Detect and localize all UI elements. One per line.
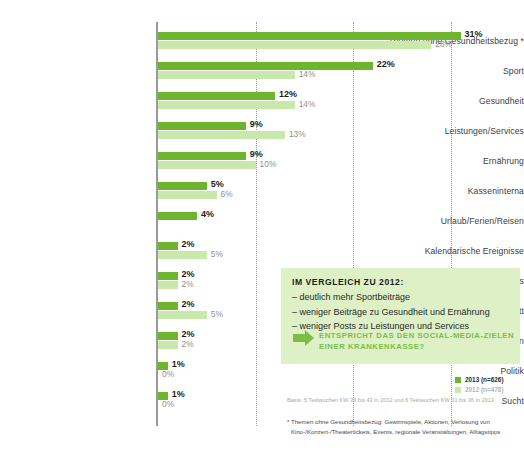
bar-value-2012: 2% [182, 340, 194, 348]
bar-2012 [158, 101, 295, 109]
bar-value-2012: 0% [162, 370, 174, 378]
bar-2013 [158, 122, 246, 130]
bar-row: Urlaub/Ferien/Reisen4% [0, 206, 524, 236]
bar-row: Ernährung9%10% [0, 146, 524, 176]
legend-item: 2013 (n=626) [455, 376, 504, 383]
bar-value-2013: 22% [377, 60, 395, 68]
bar-row: Gesundheit12%14% [0, 86, 524, 116]
bar-2012 [158, 341, 178, 349]
bar-value-2013: 2% [182, 240, 195, 248]
bar-value-2013: 2% [182, 330, 195, 338]
bar-2012 [158, 161, 256, 169]
bar-value-2013: 31% [465, 30, 483, 38]
bar-value-2012: 0% [162, 400, 174, 408]
bar-value-2013: 9% [250, 150, 263, 158]
bar-value-2013: 4% [201, 210, 214, 218]
bar-group: 9%13% [158, 116, 524, 146]
legend-swatch [455, 387, 461, 393]
bar-group: 22%14% [158, 56, 524, 86]
bar-2012 [158, 191, 217, 199]
arrow-right-icon [293, 330, 315, 346]
chart-figure: Themen ohne Gesundheitsbezug *31%28%Spor… [0, 0, 524, 459]
bar-2012 [158, 41, 431, 49]
bar-value-2013: 1% [172, 360, 185, 368]
bar-2013 [158, 302, 178, 310]
chart-legend: 2013 (n=626)2012 (n=478) [455, 376, 504, 396]
bar-2012 [158, 311, 207, 319]
bar-value-2012: 10% [260, 160, 277, 168]
bar-value-2012: 5% [211, 250, 223, 258]
bar-value-2012: 13% [289, 130, 306, 138]
callout-title: IM VERGLEICH ZU 2012: [292, 277, 510, 287]
bar-row: Leistungen/Services9%13% [0, 116, 524, 146]
footnote-text: * Themen ohne Gesundheitsbezug: Gewinnsp… [287, 417, 524, 436]
bar-group: 31%28% [158, 26, 524, 56]
bar-value-2013: 5% [211, 180, 224, 188]
legend-label: 2013 (n=626) [465, 376, 504, 383]
legend-swatch [455, 377, 461, 383]
bar-row: Sport22%14% [0, 56, 524, 86]
legend-label: 2012 (n=478) [465, 386, 504, 393]
bar-2013 [158, 242, 178, 250]
callout-item: – deutlich mehr Sportbeiträge [292, 292, 510, 303]
bar-2012 [158, 251, 207, 259]
bar-group: 5%6% [158, 176, 524, 206]
bar-2013 [158, 332, 178, 340]
bar-value-2012: 28% [435, 40, 452, 48]
bar-value-2013: 2% [182, 270, 195, 278]
bar-row: Kalendarische Ereignisse2%5% [0, 236, 524, 266]
bar-value-2013: 9% [250, 120, 263, 128]
bar-2013 [158, 182, 207, 190]
bar-group: 12%14% [158, 86, 524, 116]
bar-value-2012: 5% [211, 310, 223, 318]
bar-row: Themen ohne Gesundheitsbezug *31%28% [0, 26, 524, 56]
bar-group: 2%5% [158, 236, 524, 266]
legend-item: 2012 (n=478) [455, 386, 504, 393]
bar-value-2012: 14% [299, 100, 316, 108]
callout-item: – weniger Beiträge zu Gesundheit und Ern… [292, 307, 510, 318]
bar-row: Kasseninterna5%6% [0, 176, 524, 206]
bar-2013 [158, 62, 373, 70]
bar-group: 9%10% [158, 146, 524, 176]
bar-2012 [158, 71, 295, 79]
bar-value-2013: 2% [182, 300, 195, 308]
bar-2013 [158, 32, 461, 40]
basis-note: Basis: 5 Testwochen KW 39 bis 43 in 2012… [287, 397, 519, 403]
bar-value-2012: 6% [221, 190, 233, 198]
callout-question: ENTSPRICHT DAS DEN SOCIAL-MEDIA-ZIELEN E… [319, 331, 515, 352]
bar-value-2013: 12% [279, 90, 297, 98]
bar-chart-plot: Themen ohne Gesundheitsbezug *31%28%Spor… [0, 0, 524, 459]
bar-2013 [158, 92, 275, 100]
bar-2012 [158, 281, 178, 289]
bar-value-2012: 14% [299, 70, 316, 78]
bar-2013 [158, 212, 197, 220]
bar-2013 [158, 152, 246, 160]
bar-2013 [158, 272, 178, 280]
bar-2012 [158, 131, 285, 139]
bar-value-2013: 1% [172, 390, 185, 398]
bar-value-2012: 2% [182, 280, 194, 288]
bar-group: 4% [158, 206, 524, 236]
comparison-callout: IM VERGLEICH ZU 2012: – deutlich mehr Sp… [281, 268, 520, 364]
